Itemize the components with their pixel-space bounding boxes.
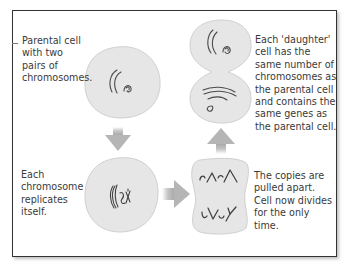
daughter-cells xyxy=(190,20,251,123)
daughter-cells-label: Each 'daughter' cell has the same number… xyxy=(255,34,345,133)
arrow-down-icon xyxy=(105,127,131,151)
replicate-label: Each chromosome replicates itself. xyxy=(21,169,91,219)
replicating-cell xyxy=(85,158,158,232)
pulled-apart-label: The copies are pulled apart. Cell now di… xyxy=(254,170,344,232)
dividing-cell xyxy=(192,158,249,234)
arrow-up-icon xyxy=(207,128,235,154)
parental-cell-label: Parental cell with two pairs of chromoso… xyxy=(22,35,92,85)
parental-cell xyxy=(85,47,160,118)
arrow-right-icon xyxy=(162,180,190,208)
